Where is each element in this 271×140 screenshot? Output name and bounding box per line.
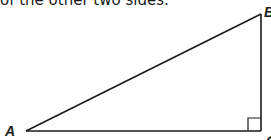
vertex-label-b: B	[264, 4, 271, 20]
vertex-label-a: A	[4, 123, 15, 139]
right-angle-marker	[248, 118, 261, 131]
right-triangle-diagram: A B C	[0, 0, 271, 140]
side-ab-hypotenuse	[26, 14, 261, 131]
vertex-label-c: C	[266, 133, 271, 140]
